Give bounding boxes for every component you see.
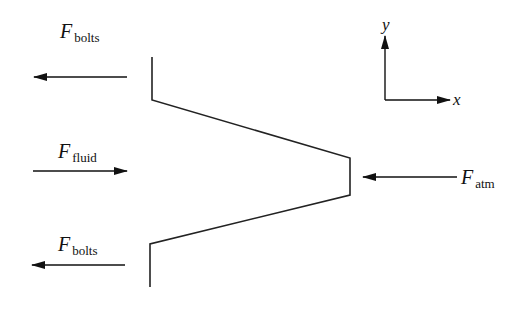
x-axis-label: x — [452, 90, 461, 109]
force-fluid: Ffluid — [33, 140, 127, 171]
force-bolts-top-label: Fbolts — [59, 20, 100, 45]
force-atm: Fatm — [363, 166, 495, 191]
free-body-diagram: Fbolts Ffluid Fbolts Fatm y x — [0, 0, 523, 319]
nozzle-outline — [150, 57, 350, 287]
force-fluid-label: Ffluid — [57, 140, 97, 165]
y-axis-label: y — [380, 15, 390, 34]
force-bolts-bottom-label: Fbolts — [57, 233, 98, 258]
force-atm-label: Fatm — [460, 166, 495, 191]
coordinate-axes: y x — [380, 15, 461, 109]
force-bolts-bottom: Fbolts — [32, 233, 125, 265]
force-bolts-top: Fbolts — [34, 20, 127, 77]
